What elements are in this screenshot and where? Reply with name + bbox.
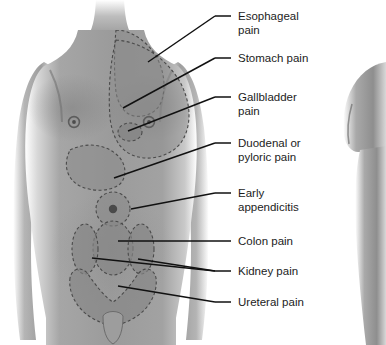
kidney-pain-region-right [128,224,154,274]
label-colon-pain: Colon pain [238,235,293,247]
pectoral-shadow-left [28,74,116,142]
colon-pain-region [93,221,133,275]
label-stomach-pain: Stomach pain [238,52,308,64]
nipple-left-center [72,120,76,124]
kidney-pain-region-left [72,224,98,274]
label-ureteral-pain: Ureteral pain [238,296,304,308]
referred-pain-illustration: EsophagealpainStomach painGallbladderpai… [0,0,386,345]
gallbladder-pain-region [118,123,142,141]
label-kidney-pain: Kidney pain [238,265,298,277]
umbilicus [109,205,117,213]
